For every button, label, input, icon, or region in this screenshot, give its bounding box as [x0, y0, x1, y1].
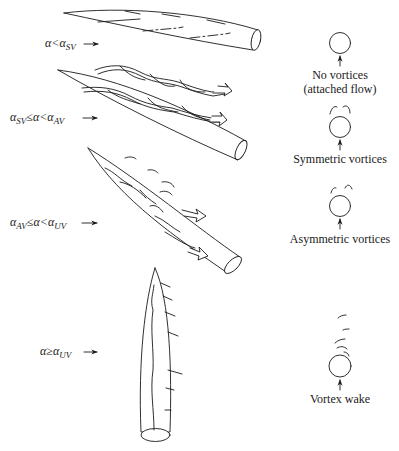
- operator: ≤: [26, 110, 33, 124]
- caption-line: (attached flow): [275, 82, 399, 96]
- condition-label-symmetric: αSV≤α<αAV: [10, 110, 64, 126]
- condition-label-attached: α<αSV: [45, 36, 76, 52]
- subscript: AV: [54, 116, 65, 126]
- body-symmetric-vortices: [58, 66, 250, 162]
- subscript: SV: [16, 116, 26, 126]
- cross-section-asymmetric: [330, 185, 353, 229]
- subscript: SV: [66, 42, 76, 52]
- subscript: AV: [16, 221, 27, 231]
- operator: ≥: [46, 344, 53, 358]
- circle-icon: [330, 33, 351, 54]
- caption-asymmetric: Asymmetric vortices: [275, 232, 399, 246]
- caption-line: Symmetric vortices: [275, 152, 399, 166]
- body-vortex-wake: [140, 268, 182, 442]
- cross-section-wake: [329, 315, 351, 390]
- caption-attached: No vortices (attached flow): [275, 68, 399, 96]
- caption-line: Vortex wake: [275, 392, 399, 406]
- circle-icon: [330, 196, 351, 217]
- cross-section-symmetric: [330, 106, 351, 150]
- circle-icon: [330, 117, 351, 138]
- cross-section-attached: [330, 33, 351, 67]
- body-attached-flow: [64, 10, 263, 51]
- caption-line: Asymmetric vortices: [275, 232, 399, 246]
- condition-label-asymmetric: αAV≤α<αUV: [10, 215, 66, 231]
- caption-line: No vortices: [275, 68, 399, 82]
- subscript: UV: [54, 221, 66, 231]
- caption-symmetric: Symmetric vortices: [275, 152, 399, 166]
- subscript: UV: [59, 350, 71, 360]
- condition-label-wake: α≥αUV: [40, 344, 71, 360]
- circle-icon: [329, 355, 351, 377]
- caption-wake: Vortex wake: [275, 392, 399, 406]
- body-asymmetric-vortices: [88, 148, 244, 276]
- operator: <: [40, 215, 48, 229]
